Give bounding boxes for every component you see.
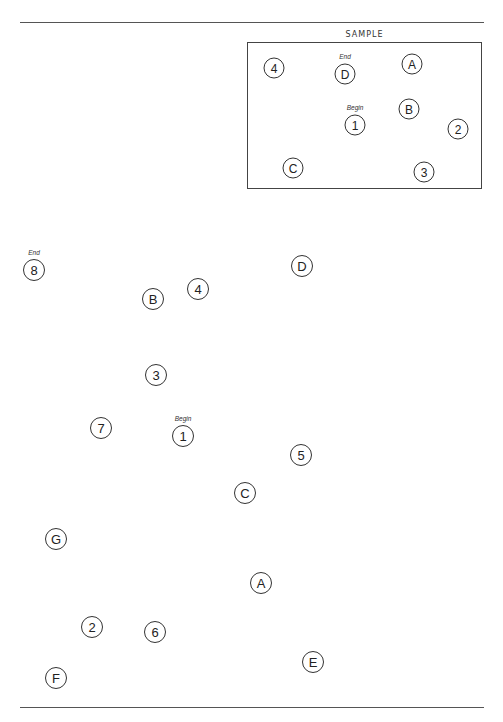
- sample-title: SAMPLE: [346, 30, 384, 39]
- test-node-6[interactable]: 6: [144, 621, 166, 643]
- sample-node-1[interactable]: 1: [345, 115, 366, 136]
- sample-node-d[interactable]: D: [335, 64, 356, 85]
- sample-node-c[interactable]: C: [283, 158, 304, 179]
- test-node-d[interactable]: D: [291, 255, 313, 277]
- test-node-4[interactable]: 4: [187, 278, 209, 300]
- test-node-8[interactable]: 8: [23, 259, 45, 281]
- test-node-2[interactable]: 2: [81, 616, 103, 638]
- sample-node-a[interactable]: A: [402, 54, 423, 75]
- test-node-a[interactable]: A: [250, 572, 272, 594]
- test-node-f[interactable]: F: [45, 667, 67, 689]
- test-begin-label: Begin: [175, 415, 192, 422]
- test-node-7[interactable]: 7: [90, 417, 112, 439]
- sample-begin-label: Begin: [347, 104, 364, 111]
- bottom-rule: [20, 707, 484, 708]
- sample-node-4[interactable]: 4: [264, 58, 285, 79]
- sample-end-label: End: [339, 53, 351, 60]
- test-node-3[interactable]: 3: [145, 364, 167, 386]
- test-end-label: End: [28, 249, 40, 256]
- test-node-e[interactable]: E: [302, 651, 324, 673]
- sample-node-2[interactable]: 2: [448, 119, 469, 140]
- test-node-c[interactable]: C: [234, 482, 256, 504]
- test-node-b[interactable]: B: [142, 288, 164, 310]
- sample-node-3[interactable]: 3: [414, 162, 435, 183]
- test-node-1[interactable]: 1: [172, 425, 194, 447]
- sample-node-b[interactable]: B: [399, 99, 420, 120]
- test-node-5[interactable]: 5: [290, 444, 312, 466]
- test-node-g[interactable]: G: [45, 528, 67, 550]
- top-rule: [20, 22, 484, 23]
